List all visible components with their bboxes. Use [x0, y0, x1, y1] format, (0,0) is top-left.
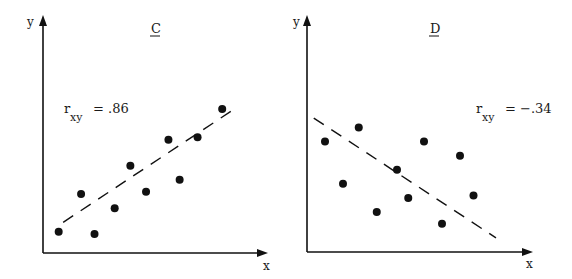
data-point — [55, 228, 63, 236]
data-points — [321, 123, 478, 227]
correlation-figure: y x C r xy = .86 y x D r xy — [0, 0, 572, 279]
data-point — [142, 188, 150, 196]
r-value: = .86 — [93, 101, 129, 116]
y-axis-arrow-icon — [39, 15, 47, 26]
data-point — [339, 180, 347, 188]
dashed-regression-line — [63, 107, 238, 223]
y-axis-arrow-icon — [303, 15, 311, 26]
data-point — [194, 133, 202, 141]
data-point — [77, 190, 85, 198]
trend-line — [314, 118, 496, 238]
data-point — [438, 220, 446, 228]
r-subscript: xy — [70, 111, 83, 124]
data-point — [176, 176, 184, 184]
trend-line — [63, 107, 238, 223]
data-point — [164, 136, 172, 144]
data-point — [373, 208, 381, 216]
correlation-annotation: r xy = −.34 — [476, 101, 552, 124]
correlation-annotation: r xy = .86 — [64, 101, 129, 124]
y-axis-label: y — [292, 15, 300, 29]
data-point — [470, 192, 478, 200]
r-value: = −.34 — [505, 101, 552, 116]
data-point — [456, 152, 464, 160]
y-axis-label: y — [26, 15, 34, 29]
data-point — [218, 105, 226, 113]
x-axis-arrow-icon — [522, 248, 533, 256]
r-subscript: xy — [482, 111, 495, 124]
data-point — [91, 230, 99, 238]
panel-title: D — [430, 21, 440, 36]
x-axis-arrow-icon — [257, 249, 268, 257]
data-point — [111, 204, 119, 212]
data-point — [355, 123, 363, 131]
data-point — [126, 162, 134, 170]
data-point — [404, 194, 412, 202]
dashed-regression-line — [314, 118, 496, 238]
figure-canvas: y x C r xy = .86 y x D r xy — [0, 0, 572, 279]
data-point — [321, 138, 329, 146]
x-axis-label: x — [526, 257, 533, 271]
data-point — [420, 138, 428, 146]
scatter-panel-c: y x C r xy = .86 — [26, 15, 270, 273]
x-axis-label: x — [263, 259, 270, 273]
data-point — [393, 166, 401, 174]
scatter-panel-d: y x D r xy = −.34 — [292, 15, 552, 271]
panel-title: C — [151, 21, 161, 36]
